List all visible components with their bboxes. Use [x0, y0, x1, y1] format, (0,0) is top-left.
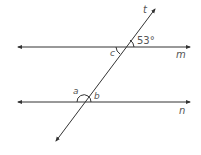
label-t: t [143, 4, 148, 15]
angle-arc-c [116, 47, 120, 54]
parallel-lines-diagram: t m n 53° c a b [0, 0, 201, 155]
label-angle-53: 53° [137, 35, 155, 46]
angle-arc-b [88, 96, 91, 102]
label-n: n [179, 105, 185, 116]
label-angle-a: a [73, 86, 79, 96]
label-angle-c: c [110, 48, 115, 58]
transversal-t [56, 9, 155, 141]
label-angle-b: b [94, 91, 100, 101]
angle-arc-53 [130, 40, 134, 47]
label-m: m [176, 49, 186, 60]
